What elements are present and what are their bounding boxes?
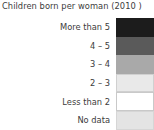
- legend-row-label: 4 – 5: [90, 41, 116, 51]
- legend-row[interactable]: More than 5: [0, 18, 154, 37]
- map-legend-panel: Children born per woman (2010 ) More tha…: [0, 0, 154, 130]
- legend-row[interactable]: Less than 2: [0, 92, 154, 111]
- legend-row-label: No data: [77, 115, 116, 125]
- legend-color-swatch[interactable]: [116, 18, 154, 37]
- legend-row-label: Less than 2: [62, 97, 116, 107]
- legend-color-swatch[interactable]: [116, 111, 154, 130]
- legend-row[interactable]: 4 – 5: [0, 37, 154, 56]
- legend-row-label: More than 5: [60, 22, 116, 32]
- legend-color-swatch[interactable]: [116, 37, 154, 56]
- legend-title: Children born per woman (2010 ): [2, 1, 154, 12]
- legend-row-label: 3 – 4: [90, 59, 116, 69]
- legend-row[interactable]: 2 – 3: [0, 74, 154, 93]
- legend-color-swatch[interactable]: [116, 74, 154, 93]
- legend-color-swatch[interactable]: [116, 92, 154, 111]
- legend-row[interactable]: 3 – 4: [0, 55, 154, 74]
- legend-row-label: 2 – 3: [90, 78, 116, 88]
- legend-rows-container: More than 54 – 53 – 42 – 3Less than 2No …: [0, 18, 154, 130]
- legend-color-swatch[interactable]: [116, 55, 154, 74]
- legend-row[interactable]: No data: [0, 111, 154, 130]
